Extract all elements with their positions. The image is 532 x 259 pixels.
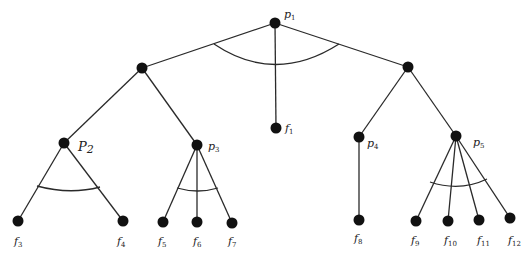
- edge-n_left-p2: [64, 68, 142, 143]
- edge-n_right-p4: [359, 67, 408, 137]
- node-f11: [474, 215, 485, 226]
- edge-n_right-p5: [408, 67, 456, 136]
- label-f6: f6: [192, 235, 202, 249]
- node-f6: [192, 217, 203, 228]
- edge-p1-n_left: [142, 23, 275, 68]
- node-labels: p1f1P2p3p4p5f3f4f5f6f7f8f9f10f11f12: [13, 8, 521, 249]
- edge-p5-f9: [416, 136, 456, 221]
- label-p1: p1: [284, 8, 296, 22]
- edge-n_left-p3: [142, 68, 197, 145]
- node-f7: [227, 218, 238, 229]
- node-n_left: [137, 63, 148, 74]
- label-f4: f4: [116, 235, 126, 249]
- and-arc-p2: [37, 186, 100, 191]
- label-p4: p4: [367, 137, 379, 151]
- node-f8: [354, 215, 365, 226]
- label-f9: f9: [410, 234, 420, 248]
- tree-edges: [18, 23, 510, 223]
- label-p5: p5: [473, 136, 485, 150]
- node-f9: [411, 216, 422, 227]
- label-f11: f11: [476, 234, 490, 248]
- label-f1: f1: [284, 122, 294, 136]
- node-p4: [354, 132, 365, 143]
- node-n_right: [403, 62, 414, 73]
- node-f3: [13, 216, 24, 227]
- label-p3: p3: [208, 140, 220, 154]
- label-f12: f12: [507, 234, 521, 248]
- node-p5: [451, 131, 462, 142]
- node-f1: [271, 123, 282, 134]
- node-f10: [443, 216, 454, 227]
- edge-p5-f10: [448, 136, 456, 221]
- tree-nodes: [13, 18, 516, 229]
- edge-p3-f5: [163, 145, 197, 222]
- node-f5: [158, 217, 169, 228]
- and-or-tree-diagram: p1f1P2p3p4p5f3f4f5f6f7f8f9f10f11f12: [0, 0, 532, 259]
- node-f4: [118, 216, 129, 227]
- node-p1: [270, 18, 281, 29]
- label-f7: f7: [227, 235, 237, 249]
- label-f5: f5: [157, 235, 167, 249]
- and-arc-p5: [430, 179, 487, 186]
- edge-p1-f1: [275, 23, 276, 128]
- label-f8: f8: [353, 232, 363, 246]
- node-p3: [192, 140, 203, 151]
- node-f12: [505, 213, 516, 224]
- edge-p1-n_right: [275, 23, 408, 67]
- label-f10: f10: [443, 234, 457, 248]
- and-arc-p1: [214, 44, 339, 65]
- label-f3: f3: [13, 235, 23, 249]
- edge-p2-f3: [18, 143, 64, 221]
- label-p2: P2: [77, 139, 94, 156]
- node-p2: [59, 138, 70, 149]
- and-arcs: [37, 44, 487, 191]
- edge-p3-f7: [197, 145, 232, 223]
